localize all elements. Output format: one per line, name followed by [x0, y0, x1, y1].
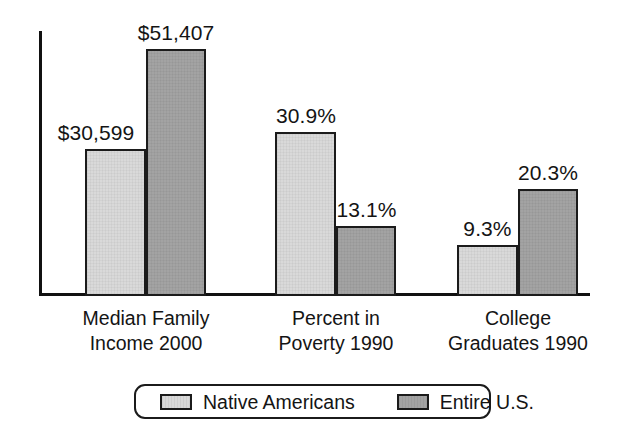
legend-label-native-americans: Native Americans — [203, 392, 355, 412]
plot-area — [0, 0, 627, 296]
legend: Native Americans Entire U.S. — [134, 384, 491, 419]
value-label-native-americans-percent-in-poverty: 30.9% — [256, 105, 356, 126]
bar-native-americans-median-family-income — [85, 149, 146, 296]
category-label-line-2: Graduates 1990 — [428, 331, 608, 356]
bar-chart: $30,599 $51,407 30.9% 13.1% 9.3% 20.3% M… — [0, 0, 627, 446]
legend-swatch-light-gray-icon — [160, 394, 192, 410]
category-label-college-graduates: College Graduates 1990 — [428, 306, 608, 356]
bar-entire-us-median-family-income — [146, 49, 206, 296]
value-label-native-americans-college-graduates: 9.3% — [444, 218, 531, 239]
value-label-native-americans-median-family-income: $30,599 — [46, 122, 146, 143]
category-label-median-family-income: Median Family Income 2000 — [56, 306, 236, 356]
legend-label-entire-us: Entire U.S. — [440, 392, 534, 412]
value-label-entire-us-median-family-income: $51,407 — [126, 22, 226, 43]
value-label-entire-us-percent-in-poverty: 13.1% — [318, 199, 415, 220]
category-label-percent-in-poverty: Percent in Poverty 1990 — [246, 306, 426, 356]
category-label-line-2: Poverty 1990 — [246, 331, 426, 356]
legend-item-entire-us: Entire U.S. — [397, 392, 534, 412]
value-label-entire-us-college-graduates: 20.3% — [499, 162, 597, 183]
category-label-line-1: Percent in — [246, 306, 426, 331]
legend-item-native-americans: Native Americans — [160, 392, 355, 412]
bar-entire-us-college-graduates — [518, 189, 578, 296]
legend-swatch-dark-gray-icon — [397, 394, 429, 410]
category-label-line-2: Income 2000 — [56, 331, 236, 356]
bar-entire-us-percent-in-poverty — [336, 226, 396, 296]
category-label-line-1: Median Family — [56, 306, 236, 331]
category-label-line-1: College — [428, 306, 608, 331]
bar-native-americans-college-graduates — [457, 245, 518, 296]
